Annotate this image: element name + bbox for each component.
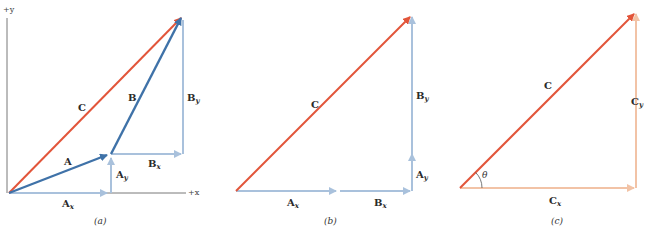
vector-addition-diagram: +y +x C B A Ax Ay Bx By (a) C Ax Bx Ay B… xyxy=(0,0,652,234)
vector-c xyxy=(236,17,410,191)
label-c: C xyxy=(544,80,552,91)
label-ay: Ay xyxy=(415,169,429,182)
vector-a xyxy=(9,155,107,193)
label-by: By xyxy=(416,90,429,103)
label-ax: Ax xyxy=(286,197,300,210)
panel-b: C Ax Bx Ay By (b) xyxy=(236,17,429,226)
label-cx: Cx xyxy=(549,195,562,208)
vector-b xyxy=(111,18,181,154)
label-c: C xyxy=(311,99,319,110)
vector-c xyxy=(460,14,634,188)
y-axis-label: +y xyxy=(3,5,15,14)
caption-a: (a) xyxy=(94,216,107,226)
label-theta: θ xyxy=(482,170,488,180)
label-ax: Ax xyxy=(61,198,75,211)
label-bx: Bx xyxy=(148,158,161,171)
label-by: By xyxy=(187,92,200,105)
label-bx: Bx xyxy=(374,197,387,210)
caption-b: (b) xyxy=(324,216,337,226)
x-axis-label: +x xyxy=(188,188,200,197)
panel-a: +y +x C B A Ax Ay Bx By (a) xyxy=(3,5,200,226)
label-ay: Ay xyxy=(115,169,129,182)
label-cy: Cy xyxy=(631,96,644,109)
label-b: B xyxy=(128,92,136,103)
label-a: A xyxy=(63,156,72,167)
caption-c: (c) xyxy=(551,216,564,226)
label-c: C xyxy=(78,102,86,113)
panel-c: θ C Cx Cy (c) xyxy=(460,14,644,226)
